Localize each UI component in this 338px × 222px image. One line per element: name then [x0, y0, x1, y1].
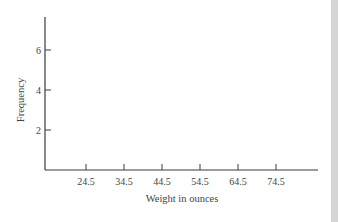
x-ticks: 24.5 34.5 44.5 54.5 64.5 74.5 [77, 164, 285, 187]
x-tick-label: 74.5 [267, 176, 285, 187]
x-tick-label: 64.5 [229, 176, 247, 187]
y-tick-label: 2 [36, 125, 41, 136]
x-tick-label: 24.5 [77, 176, 95, 187]
y-tick-label: 6 [36, 45, 41, 56]
y-ticks: 2 4 6 [36, 45, 51, 136]
x-tick-label: 54.5 [191, 176, 209, 187]
chart: 2 4 6 24.5 34.5 44.5 54.5 64.5 74.5 Weig… [0, 0, 338, 222]
y-axis-title: Frequency [15, 77, 26, 122]
y-tick-label: 4 [36, 85, 41, 96]
x-axis-title: Weight in ounces [146, 193, 219, 204]
x-tick-label: 44.5 [153, 176, 171, 187]
x-tick-label: 34.5 [115, 176, 133, 187]
